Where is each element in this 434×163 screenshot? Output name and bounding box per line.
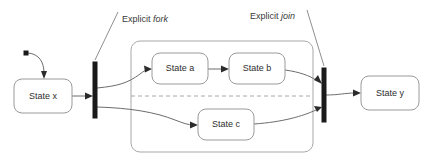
- state-label: State b: [243, 63, 272, 73]
- initial-pseudostate-icon: [24, 51, 28, 55]
- arrowhead-icon: [314, 106, 322, 112]
- annotation-prefix: Explicit: [250, 11, 281, 21]
- arrowhead-icon: [314, 75, 322, 84]
- state-node-state-b[interactable]: State b: [229, 53, 285, 84]
- annotation-text: Explicit fork: [122, 14, 169, 24]
- join-bar[interactable]: [322, 68, 326, 122]
- transition-join-to-state-y[interactable]: [326, 90, 361, 97]
- annotation-text: Explicit join: [250, 11, 295, 21]
- leader-line: [95, 12, 118, 60]
- transition-line: [326, 93, 355, 95]
- arrowhead-icon: [85, 93, 93, 100]
- fork-bar[interactable]: [93, 62, 97, 118]
- state-label: State y: [376, 88, 405, 98]
- state-node-state-c[interactable]: State c: [198, 109, 254, 140]
- uml-state-machine-diagram: State x State a State b State c State y: [0, 0, 434, 163]
- state-node-state-x[interactable]: State x: [14, 79, 72, 113]
- state-diagram-canvas: State x State a State b State c State y: [0, 0, 434, 163]
- transition-state-x-to-fork[interactable]: [72, 93, 93, 100]
- annotation-emphasis: join: [280, 11, 295, 21]
- transition-initial-to-state-x[interactable]: [28, 53, 47, 79]
- state-node-state-y[interactable]: State y: [361, 76, 419, 110]
- arrowhead-icon: [41, 71, 47, 79]
- annotation-prefix: Explicit: [122, 14, 153, 24]
- state-label: State a: [166, 63, 195, 73]
- arrowhead-icon: [353, 90, 361, 97]
- transition-line: [28, 53, 44, 73]
- state-label: State c: [212, 119, 241, 129]
- state-node-state-a[interactable]: State a: [152, 53, 208, 84]
- state-label: State x: [29, 91, 58, 101]
- annotation-emphasis: fork: [153, 14, 169, 24]
